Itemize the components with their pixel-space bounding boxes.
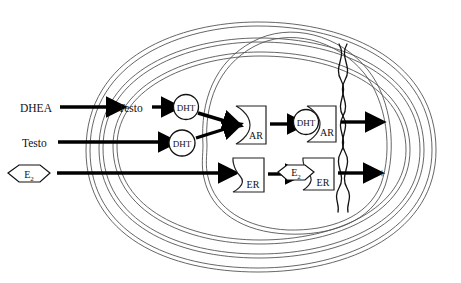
er-receptor-free: ER [233,158,264,192]
er-bound-label: ER [317,177,330,188]
ar-receptor-bound-complex: DHT AR [294,106,337,142]
cytoplasm-boundary [113,52,410,244]
er-free-label: ER [247,179,260,190]
dht-imported-label: DHT [173,139,192,149]
cell-signaling-diagram: DHEA Testo DHT Testo DHT E2 AR ER DHT AR [0,0,461,283]
ar-bound-label: AR [320,127,334,138]
dht-converted-label: DHT [177,103,196,113]
dht-bound-label: DHT [297,118,316,128]
cell-membrane-inner-layer [99,38,424,258]
dna-double-helix [337,44,350,212]
label-dhea: DHEA [20,102,53,114]
er-receptor-bound-complex: E2 ER [278,158,334,190]
ar-receptor-free: AR [236,106,266,144]
cell-membrane [86,22,436,272]
label-testo-extracellular: Testo [22,137,47,149]
arrow-dht-imported-to-ar [196,128,228,138]
ar-free-label: AR [249,130,263,141]
label-testo-cytoplasm: Testo [118,102,143,114]
dht-converted-node: DHT [174,95,199,120]
e2-extracellular-node: E2 [8,165,50,183]
arrow-dht-converted-to-ar [198,113,228,122]
diagram-canvas: DHEA Testo DHT Testo DHT E2 AR ER DHT AR [0,0,461,283]
negative-regulation-sign: − [377,114,384,129]
dht-imported-node: DHT [169,130,195,156]
positive-regulation-sign: + [378,166,385,181]
nucleus-envelope [202,32,391,234]
